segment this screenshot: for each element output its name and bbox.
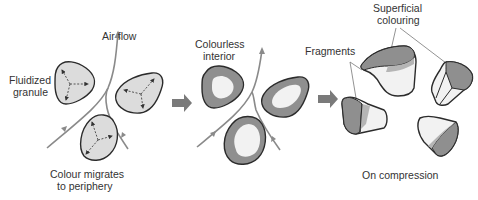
right-arrow-icon — [172, 94, 192, 112]
right-arrow-icon — [318, 90, 338, 108]
label-on-compression: On compression — [362, 169, 439, 181]
stage-fluidized-granules: Air flow Fluidized granule Colour migrat… — [9, 30, 163, 192]
stage-colourless-interior: Colourless interior — [195, 38, 309, 164]
leader-fragments-2 — [350, 62, 356, 98]
leader-fragments-1 — [350, 62, 362, 70]
fragment-bottom — [418, 117, 458, 157]
granule-with-coloured-shell-right — [262, 77, 309, 117]
fluidized-granule-top-left — [55, 62, 94, 104]
fluidized-granule-bottom — [81, 115, 118, 160]
air-flow-arrowhead-right — [121, 132, 126, 138]
label-superficial: Superficial — [373, 2, 422, 14]
label-to-periphery: to periphery — [57, 180, 113, 192]
label-interior: interior — [203, 50, 236, 62]
label-air-flow: Air flow — [102, 30, 137, 42]
fluidized-granule-right — [116, 73, 163, 113]
granule-with-coloured-shell-bottom — [224, 117, 265, 165]
air-flow-arrowhead-top — [259, 47, 265, 54]
label-granule: granule — [13, 86, 48, 98]
granule-colour-migration-diagram: Air flow Fluidized granule Colour migrat… — [0, 0, 478, 200]
fragment-right — [432, 62, 473, 106]
label-colour-migrates: Colour migrates — [50, 168, 124, 180]
label-colouring: colouring — [377, 14, 420, 26]
granule-with-coloured-shell-top-left — [202, 66, 243, 108]
label-fragments: Fragments — [305, 45, 355, 57]
fragment-left — [342, 97, 387, 134]
fragment-top — [361, 46, 416, 96]
label-fluidized: Fluidized — [9, 74, 51, 86]
label-colourless: Colourless — [195, 38, 245, 50]
